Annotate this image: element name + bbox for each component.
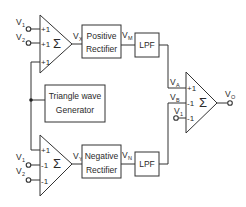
gain-label: +1 (41, 25, 51, 34)
input-v2-bottom: V 2 (16, 166, 40, 182)
block-label: Negative (85, 151, 119, 161)
triangle-wave-generator-block: Triangle wave Generator (45, 85, 105, 122)
output-terminal (228, 101, 233, 106)
gain-label: -1 (41, 161, 49, 170)
junction-dot (29, 98, 33, 102)
sigma-symbol: Σ (199, 95, 207, 110)
input-v1-top: V 1 (16, 17, 40, 31)
block-label: Generator (56, 105, 94, 115)
input-v1-output-summer: V 1 (174, 106, 186, 120)
gain-label: -1 (187, 99, 195, 108)
signal-subscript: 2 (22, 37, 25, 43)
signal-subscript: N (128, 155, 132, 161)
sigma-symbol: Σ (53, 156, 61, 171)
signal-subscript: 2 (22, 171, 25, 177)
gain-label: -1 (187, 114, 195, 123)
sigma-symbol: Σ (53, 36, 61, 51)
gain-label: +1 (41, 40, 51, 49)
input-v1-bottom: V 1 (16, 152, 40, 167)
block-diagram: Σ +1 +1 +1 V 1 V 2 V X Positive Rectifie… (0, 0, 246, 207)
bottom-summer: Σ +1 -1 -1 (40, 135, 72, 196)
gain-label: -1 (41, 177, 49, 186)
lpf-bottom-block: LPF (135, 152, 159, 176)
output-summer: Σ +1 -1 -1 (186, 72, 217, 133)
gain-label: +1 (187, 84, 197, 93)
signal-subscript: O (231, 94, 236, 100)
signal-subscript: B (176, 97, 180, 103)
input-terminal (26, 27, 31, 32)
signal-subscript: 1 (180, 111, 183, 117)
signal-subscript: A (176, 82, 180, 88)
input-v2-top: V 2 (16, 32, 40, 45)
input-terminal (26, 178, 31, 183)
negative-rectifier-block: Negative Rectifier (82, 145, 121, 178)
block-label: Positive (87, 31, 117, 41)
signal-subscript: 1 (22, 157, 25, 163)
block-label: LPF (139, 40, 155, 50)
input-terminal (26, 163, 31, 168)
signal-subscript: 1 (22, 22, 25, 28)
gain-label: +1 (41, 146, 51, 155)
input-terminal (174, 116, 179, 121)
block-label: Triangle wave (49, 91, 102, 101)
block-label: LPF (139, 159, 155, 169)
gain-label: +1 (41, 58, 51, 67)
signal-subscript: M (128, 35, 133, 41)
block-label: Rectifier (86, 165, 117, 175)
top-summer: Σ +1 +1 +1 (40, 15, 72, 73)
lpf-top-block: LPF (135, 33, 159, 57)
block-label: Rectifier (86, 44, 117, 54)
input-terminal (26, 41, 31, 46)
positive-rectifier-block: Positive Rectifier (82, 25, 121, 58)
